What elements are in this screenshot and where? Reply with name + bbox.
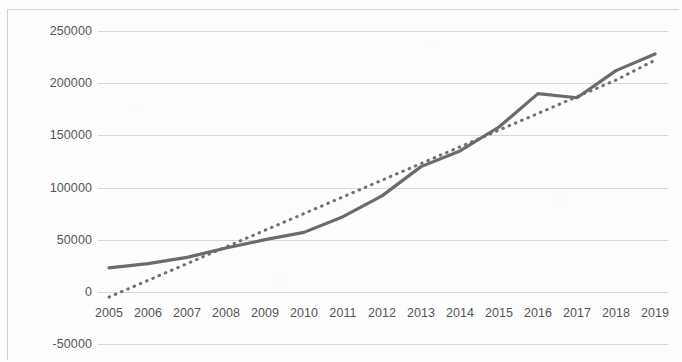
x-axis-tick-label: 2013 bbox=[407, 306, 435, 320]
y-axis-tick-label: 100000 bbox=[50, 181, 92, 195]
x-axis-tick-label: 2018 bbox=[602, 306, 630, 320]
y-axis: 250000200000150000100000500000-50000 bbox=[0, 12, 92, 352]
x-axis: 2005200620072008200920102011201220132014… bbox=[98, 306, 668, 326]
x-axis-tick-label: 2010 bbox=[290, 306, 318, 320]
x-axis-tick-label: 2008 bbox=[212, 306, 240, 320]
y-axis-tick-label: 0 bbox=[85, 285, 92, 299]
x-axis-tick-label: 2012 bbox=[368, 306, 396, 320]
x-axis-tick-label: 2019 bbox=[641, 306, 669, 320]
x-axis-tick-label: 2015 bbox=[485, 306, 513, 320]
line-chart: 250000200000150000100000500000-50000 200… bbox=[0, 0, 682, 362]
gridline bbox=[98, 31, 668, 32]
x-axis-tick-label: 2009 bbox=[251, 306, 279, 320]
x-axis-tick-label: 2006 bbox=[134, 306, 162, 320]
gridline bbox=[98, 135, 668, 136]
plot-area bbox=[98, 12, 668, 352]
gridline bbox=[98, 188, 668, 189]
x-axis-tick-label: 2017 bbox=[563, 306, 591, 320]
x-axis-tick-label: 2005 bbox=[95, 306, 123, 320]
y-axis-tick-label: 50000 bbox=[57, 233, 92, 247]
y-axis-tick-label: 200000 bbox=[50, 76, 92, 90]
gridline bbox=[98, 240, 668, 241]
x-axis-tick-label: 2016 bbox=[524, 306, 552, 320]
y-axis-tick-label: 250000 bbox=[50, 24, 92, 38]
y-axis-tick-label: -50000 bbox=[52, 337, 92, 351]
x-axis-tick-label: 2011 bbox=[329, 306, 356, 320]
gridline bbox=[98, 344, 668, 345]
x-axis-tick-label: 2014 bbox=[446, 306, 474, 320]
x-axis-tick-label: 2007 bbox=[173, 306, 201, 320]
gridline bbox=[98, 83, 668, 84]
gridline bbox=[98, 292, 668, 293]
chart-top-border bbox=[7, 9, 679, 10]
y-axis-tick-label: 150000 bbox=[50, 128, 92, 142]
